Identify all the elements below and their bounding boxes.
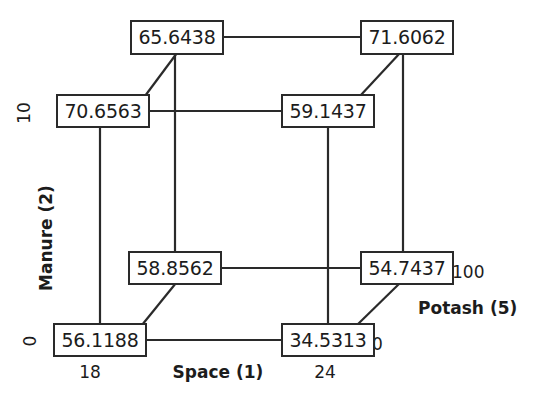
- node-front-bottom-left[interactable]: 56.1188: [53, 323, 147, 357]
- z-axis-tick-high: 100: [452, 262, 484, 282]
- node-back-bottom-right[interactable]: 54.7437: [360, 251, 454, 285]
- z-axis-title: Potash (5): [418, 298, 517, 318]
- x-axis-tick-high: 24: [305, 362, 345, 382]
- edge-depth-top-left: [145, 53, 177, 96]
- node-front-bottom-right[interactable]: 34.5313: [281, 323, 375, 357]
- node-front-top-right[interactable]: 59.1437: [281, 94, 375, 128]
- edge-depth-top-right: [360, 53, 400, 96]
- edge-depth-bottom-left: [142, 283, 176, 325]
- y-axis-tick-low: 0: [20, 331, 40, 351]
- y-axis-tick-high: 10: [14, 101, 34, 125]
- edge-depth-bottom-right: [357, 283, 400, 325]
- y-axis-title: Manure (2): [36, 178, 56, 298]
- node-front-top-left[interactable]: 70.6563: [56, 94, 150, 128]
- x-axis-title: Space (1): [153, 362, 283, 382]
- node-back-top-right[interactable]: 71.6062: [360, 20, 454, 55]
- x-axis-tick-low: 18: [70, 362, 110, 382]
- node-back-bottom-left[interactable]: 58.8562: [128, 251, 222, 285]
- cube-plot-figure: 65.6438 71.6062 70.6563 59.1437 58.8562 …: [0, 0, 536, 411]
- node-back-top-left[interactable]: 65.6438: [130, 20, 224, 55]
